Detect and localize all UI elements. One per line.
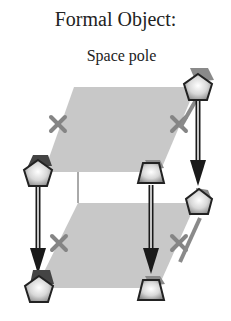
arrow-back [190, 100, 206, 186]
top-back-pentagon-node [184, 68, 214, 100]
arrow-left [30, 185, 46, 274]
bottom-left-pentagon-node [25, 270, 54, 302]
top-front-trapezoid-node [138, 160, 164, 183]
top-left-pentagon-node [24, 155, 52, 186]
space-pole-diagram [0, 0, 231, 321]
bottom-back-pentagon-node [186, 188, 212, 214]
